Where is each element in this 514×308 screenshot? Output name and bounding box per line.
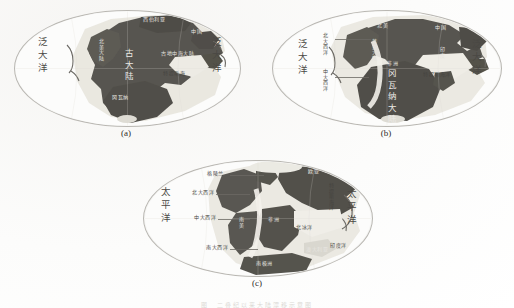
caption-a: (a)	[106, 128, 146, 138]
leader-line-c-north-atlantic	[216, 194, 250, 195]
figure-bottom-caption: 图 二叠纪以来大陆漂移示意图	[0, 300, 514, 308]
leader-line-b-north-atlantic	[335, 39, 371, 40]
globe-outline-a: 泛大洋 泛大洋 古大陆 西伯利亚 北美大陆 中国 古地中海大陆 特提斯海 冈瓦纳	[14, 10, 241, 127]
leader-line-c-south-atlantic	[230, 249, 258, 250]
leader-line-c-central-atlantic	[218, 219, 250, 220]
paleomap-a	[15, 11, 240, 126]
caption-b: (b)	[366, 128, 406, 138]
figure-sheet: 泛大洋 泛大洋 古大陆 西伯利亚 北美大陆 中国 古地中海大陆 特提斯海 冈瓦纳…	[0, 0, 514, 308]
paleomap-c	[144, 161, 372, 276]
caption-c: (c)	[237, 278, 277, 288]
map-panel-c: 太平洋 太平洋 格陵兰 北大西洋 中大西洋 南大西洋 特提斯海洋 印度洋 北冰洋…	[143, 160, 371, 275]
leader-line-b-central-atlantic	[335, 77, 369, 78]
paleomap-b	[273, 11, 501, 126]
map-panel-a: 泛大洋 泛大洋 古大陆 西伯利亚 北美大陆 中国 古地中海大陆 特提斯海 冈瓦纳…	[14, 10, 239, 125]
globe-outline-c: 太平洋 太平洋 格陵兰 北大西洋 中大西洋 南大西洋 特提斯海洋 印度洋 北冰洋…	[143, 160, 373, 277]
map-panel-b: 泛大洋 泛大洋 北大西洋 中大西洋 冈瓦纳大陆 特提斯海洋 北美 中国 劳亚大陆…	[272, 10, 500, 125]
globe-outline-b: 泛大洋 泛大洋 北大西洋 中大西洋 冈瓦纳大陆 特提斯海洋 北美 中国 劳亚大陆…	[272, 10, 502, 127]
leader-line-c-greenland	[230, 175, 264, 176]
